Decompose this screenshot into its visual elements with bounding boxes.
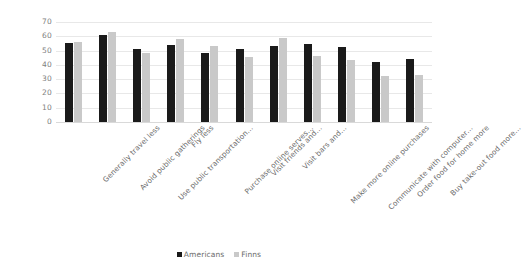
bar-group [227,22,261,122]
y-axis-tick: 0 [26,118,52,126]
bar-americans [372,62,380,122]
legend-swatch-icon [234,252,239,257]
y-axis-tick: 70 [26,18,52,26]
y-axis-tick: 10 [26,104,52,112]
legend-item[interactable]: Finns [234,250,261,259]
bar-finns [415,75,423,122]
bar-finns [347,60,355,122]
y-axis-tick: 20 [26,89,52,97]
bar-americans [338,47,346,122]
chart-legend: AmericansFinns [0,250,438,259]
x-axis-tick-label: Communicate with computer… [387,124,475,212]
bar-group [193,22,227,122]
bar-finns [142,53,150,122]
bar-group [330,22,364,122]
bar-americans [201,53,209,122]
legend-label: Finns [241,250,261,259]
y-axis-tick: 40 [26,61,52,69]
bar-group [364,22,398,122]
y-axis-tick: 60 [26,32,52,40]
bar-americans [236,49,244,122]
bar-group [124,22,158,122]
y-axis-tick: 50 [26,47,52,55]
bar-americans [65,43,73,122]
axis-baseline [56,122,432,123]
bar-groups [56,22,432,122]
bar-group [261,22,295,122]
legend-label: Americans [184,250,225,259]
bar-finns [279,38,287,122]
bar-americans [133,49,141,122]
bar-americans [304,44,312,122]
bar-finns [74,42,82,122]
bar-group [56,22,90,122]
x-axis-labels: Generally travel lessAvoid public gather… [56,124,432,242]
bar-finns [176,39,184,122]
legend-swatch-icon [177,252,182,257]
bar-group [159,22,193,122]
bar-finns [210,46,218,122]
bar-finns [313,56,321,122]
bar-group [398,22,432,122]
bar-americans [99,35,107,122]
bar-group [90,22,124,122]
bar-americans [406,59,414,122]
bar-finns [245,57,253,122]
y-axis-tick: 30 [26,75,52,83]
plot-area [56,22,432,122]
bar-americans [167,45,175,122]
y-axis: 706050403020100 [26,18,52,122]
bar-group [295,22,329,122]
legend-item[interactable]: Americans [177,250,225,259]
bar-finns [108,32,116,122]
bar-finns [381,76,389,122]
bar-americans [270,46,278,122]
